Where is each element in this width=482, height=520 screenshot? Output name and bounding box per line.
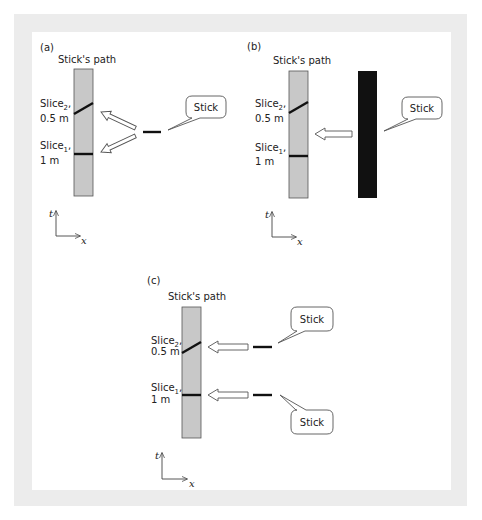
x-axis-label-b: x [297, 236, 303, 247]
path-title-a: Stick's path [58, 54, 116, 65]
path-title-c: Stick's path [168, 291, 226, 302]
slice2-length-c: 0.5 m [151, 346, 180, 357]
callout-text-upper-c: Stick [300, 314, 325, 325]
panel-label-b: (b) [247, 41, 261, 52]
slice1-length-b: 1 m [255, 156, 274, 167]
path-title-b: Stick's path [273, 55, 331, 66]
stick-full-length-b [358, 71, 377, 198]
slice1-length-a: 1 m [40, 155, 59, 166]
callout-text-b: Stick [410, 103, 435, 114]
spacetime-diagram-figure: (a) Stick's path Slice2, 0.5 m Slice1, 1… [0, 0, 482, 520]
stick-path-bar-b [289, 71, 308, 198]
stick-path-bar-a [74, 69, 93, 196]
figure-canvas [32, 32, 451, 490]
slice2-length-a: 0.5 m [40, 113, 69, 124]
panel-label-a: (a) [40, 42, 54, 53]
x-axis-label-c: x [189, 478, 195, 489]
callout-text-lower-c: Stick [300, 417, 325, 428]
x-axis-label-a: x [81, 235, 87, 246]
stick-path-bar-c [182, 307, 201, 438]
callout-text-a: Stick [194, 102, 219, 113]
slice2-length-b: 0.5 m [255, 113, 284, 124]
panel-label-c: (c) [147, 275, 160, 286]
slice1-length-c: 1 m [151, 394, 170, 405]
